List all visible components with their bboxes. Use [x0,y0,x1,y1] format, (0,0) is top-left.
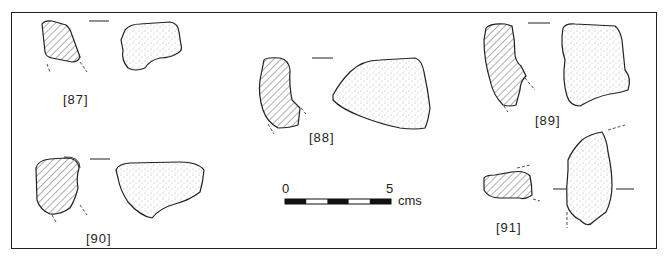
scale-unit-label: cms [398,193,422,208]
sherd-91-surface [567,132,612,225]
scale-end-label: 5 [386,181,393,196]
label-87: [87] [63,92,89,107]
label-88: [88] [309,130,335,145]
label-91: [91] [496,220,522,235]
sherd-88-surface [333,58,430,129]
sherd-87-section [42,21,80,62]
sherd-87-surface [121,22,182,70]
sherd-90-surface [116,162,204,218]
sherd-88 [259,58,430,134]
sherd-89-surface [562,24,630,106]
label-90: [90] [86,231,112,246]
sherd-87 [42,21,182,72]
sherd-91 [484,125,634,228]
sherd-90 [36,157,204,222]
sherd-91-section [484,172,532,199]
sherd-89-section [484,24,526,106]
scale-bar [285,199,391,204]
sherd-89 [484,23,629,112]
scale-start-label: 0 [282,181,289,196]
label-89: [89] [535,113,561,128]
sherd-90-section [36,158,79,214]
sherd-88-section [259,58,300,128]
